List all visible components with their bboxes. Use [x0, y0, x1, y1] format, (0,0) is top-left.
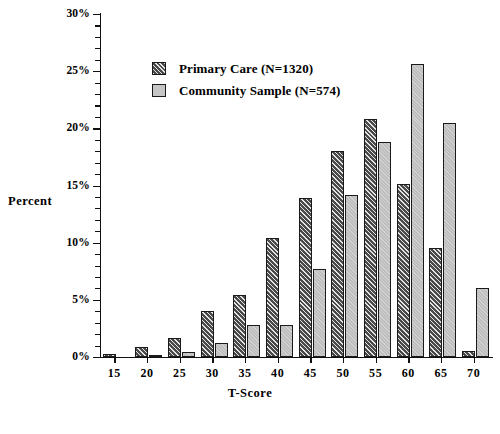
- y-tick-minor: [95, 231, 100, 232]
- bar-primary-care-45: [299, 198, 312, 357]
- x-tick: [441, 357, 442, 363]
- dark-hatched-swatch-icon: [152, 62, 166, 75]
- y-tick-minor: [95, 140, 100, 141]
- y-tick-minor: [95, 197, 100, 198]
- y-tick-label: 30%: [50, 8, 90, 20]
- x-tick: [343, 357, 344, 363]
- y-tick-minor: [95, 220, 100, 221]
- y-tick-minor: [95, 117, 100, 118]
- y-tick-major: [93, 243, 100, 244]
- y-tick-major: [93, 186, 100, 187]
- bar-primary-care-50: [331, 151, 344, 357]
- y-tick-minor: [95, 254, 100, 255]
- chart-figure: 0%5%10%15%20%25%30% 15202530354045505560…: [0, 0, 500, 434]
- y-tick-label: 10%: [50, 237, 90, 249]
- bar-community-sample-20: [149, 355, 162, 357]
- bar-community-sample-50: [345, 195, 358, 357]
- y-tick-minor: [95, 151, 100, 152]
- x-tick: [408, 357, 409, 363]
- y-tick-minor: [95, 163, 100, 164]
- y-tick-minor: [95, 288, 100, 289]
- y-tick-minor: [95, 277, 100, 278]
- y-tick-label: 25%: [50, 65, 90, 77]
- bar-community-sample-35: [247, 325, 260, 357]
- bar-community-sample-25: [182, 352, 195, 357]
- y-tick-minor: [95, 48, 100, 49]
- bar-community-sample-65: [443, 123, 456, 357]
- bar-primary-care-25: [168, 338, 181, 357]
- bar-community-sample-60: [411, 64, 424, 357]
- bar-primary-care-55: [364, 119, 377, 357]
- y-tick-label: 5%: [50, 294, 90, 306]
- bar-primary-care-70: [462, 351, 475, 357]
- y-tick-minor: [95, 334, 100, 335]
- y-tick-label: 0%: [50, 351, 90, 363]
- legend-label-primary-care: Primary Care (N=1320): [179, 61, 313, 77]
- bar-primary-care-35: [233, 295, 246, 357]
- bar-community-sample-70: [476, 288, 489, 357]
- y-tick-major: [93, 357, 100, 358]
- y-tick-minor: [95, 37, 100, 38]
- y-tick-minor: [95, 346, 100, 347]
- y-tick-minor: [95, 60, 100, 61]
- light-gray-swatch-icon: [152, 84, 166, 97]
- x-tick: [114, 357, 115, 363]
- y-tick-major: [93, 14, 100, 15]
- legend-item-primary-care: Primary Care (N=1320): [152, 59, 340, 78]
- y-tick-major: [93, 128, 100, 129]
- x-tick-label: 70: [454, 366, 494, 381]
- x-tick: [212, 357, 213, 363]
- y-tick-minor: [95, 323, 100, 324]
- y-tick-minor: [95, 311, 100, 312]
- y-tick-minor: [95, 83, 100, 84]
- y-tick-major: [93, 300, 100, 301]
- bar-community-sample-55: [378, 142, 391, 357]
- x-tick: [147, 357, 148, 363]
- y-axis-tick-labels: 0%5%10%15%20%25%30%: [44, 0, 90, 434]
- bar-primary-care-60: [397, 184, 410, 357]
- y-axis-title: Percent: [8, 194, 52, 209]
- y-tick-minor: [95, 174, 100, 175]
- x-tick: [245, 357, 246, 363]
- y-tick-label: 15%: [50, 180, 90, 192]
- y-tick-major: [93, 71, 100, 72]
- y-tick-minor: [95, 25, 100, 26]
- x-tick: [180, 357, 181, 363]
- bar-primary-care-65: [429, 248, 442, 357]
- x-tick: [376, 357, 377, 363]
- legend-label-community-sample: Community Sample (N=574): [179, 83, 340, 99]
- bar-primary-care-15: [103, 354, 116, 357]
- x-tick: [474, 357, 475, 363]
- x-tick: [278, 357, 279, 363]
- bar-primary-care-40: [266, 238, 279, 357]
- y-tick-minor: [95, 105, 100, 106]
- bar-community-sample-45: [313, 269, 326, 357]
- x-tick: [310, 357, 311, 363]
- y-tick-label: 20%: [50, 122, 90, 134]
- y-tick-minor: [95, 94, 100, 95]
- bar-primary-care-20: [135, 347, 148, 357]
- legend-item-community-sample: Community Sample (N=574): [152, 81, 340, 100]
- y-tick-minor: [95, 266, 100, 267]
- bar-primary-care-30: [201, 311, 214, 357]
- x-axis-title: T-Score: [0, 386, 500, 401]
- chart-legend: Primary Care (N=1320) Community Sample (…: [152, 59, 340, 103]
- y-tick-minor: [95, 208, 100, 209]
- bar-community-sample-30: [215, 343, 228, 357]
- bar-community-sample-40: [280, 325, 293, 357]
